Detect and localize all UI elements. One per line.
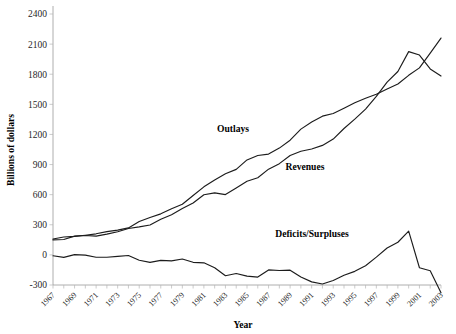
y-axis-tick-label: -300 [30, 280, 48, 290]
series-label-outlays: Outlays [217, 123, 249, 134]
y-axis-tick-label: 1800 [28, 70, 47, 80]
y-axis-tick-label: 300 [33, 220, 48, 230]
y-axis-tick-label: 2400 [28, 9, 47, 19]
chart-container: 240021001800150012009006003000-300 19671… [0, 0, 456, 334]
y-axis-tick-label: 1500 [28, 100, 47, 110]
y-axis-tick-label: 0 [42, 250, 47, 260]
y-axis-tick-label: 900 [33, 160, 48, 170]
y-axis-tick-label: 2100 [28, 40, 47, 50]
budget-line-chart: 240021001800150012009006003000-300 19671… [0, 0, 456, 334]
y-axis-title: Billions of dollars [5, 114, 16, 186]
series-label-revenues: Revenues [286, 161, 325, 172]
chart-background [0, 0, 456, 334]
y-axis-tick-label: 600 [33, 190, 48, 200]
x-axis-title: Year [233, 319, 253, 330]
y-axis-tick-label: 1200 [28, 130, 47, 140]
series-label-deficits-surpluses: Deficits/Surpluses [275, 228, 349, 239]
